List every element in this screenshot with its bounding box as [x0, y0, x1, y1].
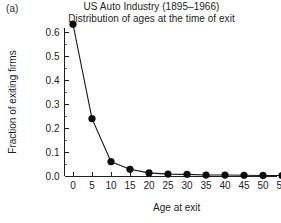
- data-point: [89, 115, 96, 122]
- line-chart-plot: 0.00.10.20.30.40.50.6 051015202530354045…: [0, 0, 281, 223]
- x-tick-label: 0: [70, 180, 76, 191]
- x-tick-label: 35: [200, 180, 212, 191]
- x-tick-label: 30: [181, 180, 193, 191]
- data-point: [70, 21, 77, 28]
- x-axis-tick-labels: 0510152025303540455055: [70, 180, 281, 191]
- data-point: [260, 172, 267, 179]
- x-tick-label: 15: [124, 180, 136, 191]
- y-tick-label: 0.4: [46, 75, 60, 86]
- x-tick-label: 55: [276, 180, 281, 191]
- data-point: [184, 171, 191, 178]
- x-tick-label: 50: [257, 180, 269, 191]
- y-axis-title: Fraction of exiting firms: [7, 50, 18, 153]
- data-point: [108, 158, 115, 165]
- data-series-line: [73, 24, 281, 175]
- x-tick-label: 25: [162, 180, 174, 191]
- figure-panel: (a) US Auto Industry (1895–1966) Distrib…: [0, 0, 281, 223]
- x-tick-label: 10: [105, 180, 117, 191]
- x-tick-label: 45: [238, 180, 250, 191]
- y-tick-label: 0.2: [46, 123, 60, 134]
- data-point: [127, 166, 134, 173]
- x-tick-label: 40: [219, 180, 231, 191]
- data-point: [241, 172, 248, 179]
- y-axis-tick-labels: 0.00.10.20.30.40.50.6: [46, 27, 60, 181]
- data-point: [146, 169, 153, 176]
- x-tick-label: 20: [143, 180, 155, 191]
- y-tick-label: 0.1: [46, 147, 60, 158]
- y-tick-label: 0.5: [46, 51, 60, 62]
- axis-lines: [65, 28, 278, 176]
- y-tick-label: 0.6: [46, 27, 60, 38]
- data-point: [203, 172, 210, 179]
- x-axis-title: Age at exit: [153, 202, 200, 213]
- data-point: [165, 171, 172, 178]
- data-series-markers: [70, 21, 281, 179]
- y-tick-label: 0.0: [46, 171, 60, 182]
- x-tick-label: 5: [89, 180, 95, 191]
- data-point: [222, 172, 229, 179]
- y-tick-label: 0.3: [46, 99, 60, 110]
- data-point: [279, 172, 281, 179]
- y-axis-ticks: [65, 33, 69, 176]
